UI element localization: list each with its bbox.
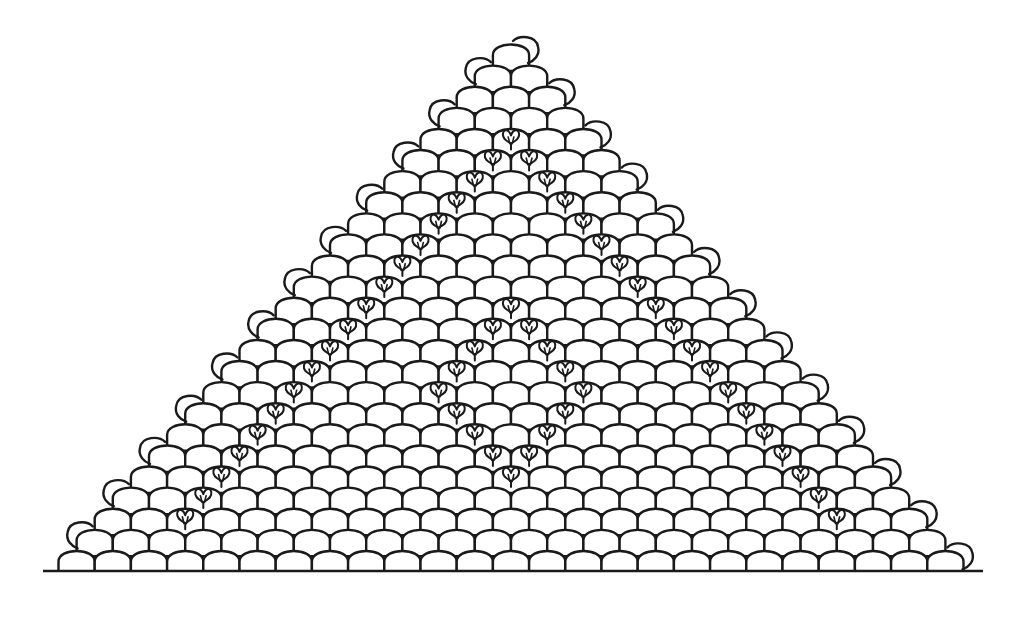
below-baseline-mask	[0, 571, 1021, 618]
scale-triangle-figure	[0, 0, 1021, 618]
scale-triangle-svg	[0, 0, 1021, 618]
